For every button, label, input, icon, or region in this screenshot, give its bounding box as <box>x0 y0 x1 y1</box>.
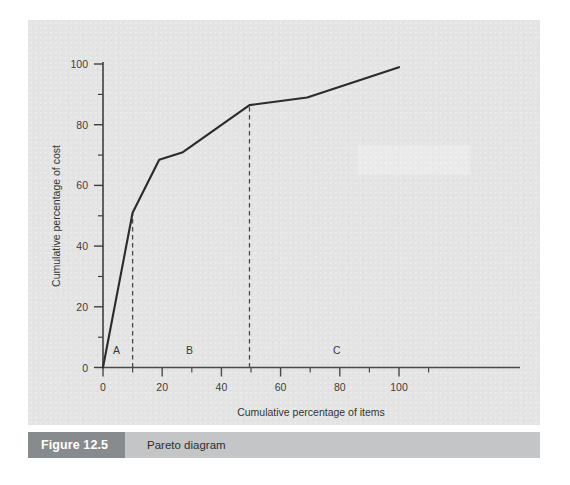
y-tick-label: 100 <box>70 58 88 70</box>
x-tick-label: 40 <box>216 381 228 393</box>
y-axis-tick-labels: 100 80 60 40 20 0 <box>70 58 88 374</box>
y-tick-label: 0 <box>82 362 88 374</box>
x-tick-label: 100 <box>390 381 408 393</box>
figure-caption-bar: Figure 12.5 Pareto diagram <box>28 432 540 458</box>
y-tick-label: 40 <box>76 240 88 252</box>
figure-caption-label: Pareto diagram <box>147 439 226 451</box>
figure-page: 100 80 60 40 20 0 <box>0 0 570 485</box>
x-axis-tick-labels: 0 20 40 60 80 100 <box>100 381 408 393</box>
axis-lines <box>103 62 520 368</box>
y-tick-label: 60 <box>76 179 88 191</box>
figure-caption-block: Pareto diagram <box>125 432 540 458</box>
zone-label-c: C <box>333 344 341 356</box>
figure-panel: 100 80 60 40 20 0 <box>28 20 540 425</box>
zone-label-a: A <box>113 344 120 356</box>
pareto-curve <box>103 67 399 367</box>
zone-label-b: B <box>186 344 193 356</box>
y-tick-label: 20 <box>76 301 88 313</box>
x-axis-title: Cumulative percentage of items <box>237 406 385 418</box>
reference-lines <box>133 105 250 367</box>
y-axis-title: Cumulative percentage of cost <box>50 145 62 287</box>
x-tick-label: 60 <box>275 381 287 393</box>
y-tick-label: 80 <box>76 119 88 131</box>
figure-number-label: Figure 12.5 <box>41 438 108 452</box>
x-tick-label: 0 <box>100 381 106 393</box>
pareto-chart: 100 80 60 40 20 0 <box>28 20 540 425</box>
figure-number-block: Figure 12.5 <box>28 432 125 458</box>
x-tick-label: 20 <box>156 381 168 393</box>
x-tick-label: 80 <box>334 381 346 393</box>
